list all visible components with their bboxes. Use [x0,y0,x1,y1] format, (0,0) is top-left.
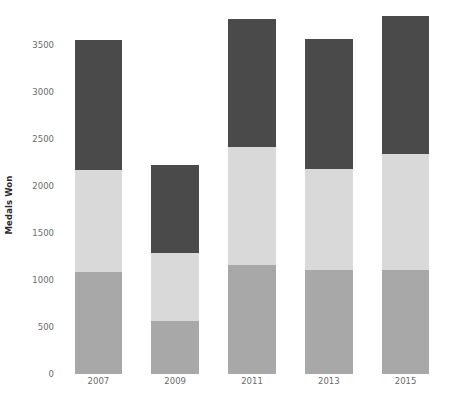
bar-segment[interactable] [305,169,353,270]
bar-segment[interactable] [228,147,276,264]
bar-group[interactable] [382,16,430,374]
bar-segment[interactable] [382,270,430,374]
y-axis-tick-label: 3000 [8,87,54,97]
y-axis-tick-labels: 0500100015002000250030003500 [4,14,54,374]
x-axis-tick-labels: 20072009201120132015 [60,376,444,396]
y-axis-tick-label: 2000 [8,181,54,191]
bar-segment[interactable] [75,40,123,169]
bar-segment[interactable] [151,165,199,253]
bar-segment[interactable] [75,272,123,374]
stacked-bar-chart: Medals Won 0500100015002000250030003500 … [0,0,452,410]
bar-group[interactable] [151,165,199,374]
bar-group[interactable] [305,39,353,374]
y-axis-tick-label: 500 [8,322,54,332]
bar-segment[interactable] [305,39,353,169]
x-axis-tick-label: 2015 [395,376,417,386]
y-axis-tick-label: 0 [8,369,54,379]
x-axis-tick-label: 2007 [88,376,110,386]
x-axis-tick-label: 2009 [164,376,186,386]
bar-segment[interactable] [305,270,353,374]
plot-area [60,14,444,374]
bar-segment[interactable] [151,321,199,374]
y-axis-tick-label: 3500 [8,40,54,50]
bar-segment[interactable] [228,265,276,375]
y-axis-tick-label: 2500 [8,134,54,144]
bar-segment[interactable] [382,16,430,154]
bar-group[interactable] [75,40,123,374]
bar-segment[interactable] [382,154,430,270]
y-axis-tick-label: 1000 [8,275,54,285]
x-axis-tick-label: 2011 [241,376,263,386]
bar-segment[interactable] [228,19,276,148]
bar-segment[interactable] [151,253,199,321]
bar-group[interactable] [228,19,276,374]
x-axis-tick-label: 2013 [318,376,340,386]
bar-segment[interactable] [75,170,123,272]
y-axis-tick-label: 1500 [8,228,54,238]
